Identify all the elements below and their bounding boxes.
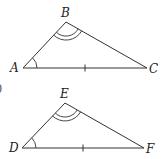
angle-d-arc	[32, 138, 36, 148]
congruent-triangles-diagram: A B C ) D E F	[0, 0, 166, 159]
vertex-label-a: A	[9, 61, 19, 75]
angle-a-arc	[33, 58, 37, 68]
angle-e-arc-inner	[55, 110, 77, 117]
vertex-label-b: B	[60, 6, 70, 20]
vertex-label-e: E	[59, 87, 69, 101]
angle-e-arc-outer	[53, 112, 81, 121]
triangle-def-edges	[22, 103, 144, 148]
vertex-label-d: D	[8, 141, 19, 155]
triangle-abc-edges	[23, 22, 147, 68]
vertex-label-f: F	[145, 142, 155, 156]
vertex-label-c: C	[149, 62, 158, 76]
angle-b-arc-inner	[56, 29, 78, 36]
triangle-abc: A B C	[9, 6, 158, 76]
angle-b-arc-outer	[54, 31, 82, 40]
triangle-def: D E F	[8, 87, 155, 156]
partial-part-label: )	[0, 82, 2, 95]
